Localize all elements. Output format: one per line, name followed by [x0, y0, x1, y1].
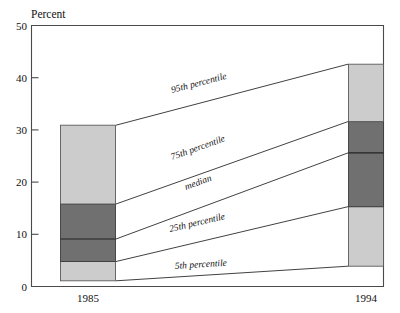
- y-tick-label-20: 20: [16, 176, 28, 188]
- bar-1994-band-75-95: [349, 64, 384, 121]
- bar-1985-band-25-75: [61, 204, 116, 262]
- y-tick-label-40: 40: [16, 72, 28, 84]
- series-label-5th: 5th percentile: [174, 258, 227, 271]
- y-tick-label-10: 10: [16, 228, 28, 240]
- series-label-median: median: [183, 173, 213, 192]
- bar-1985-band-5-25: [61, 262, 116, 281]
- x-category-label-1985: 1985: [77, 292, 100, 304]
- bar-1994: [349, 64, 384, 266]
- series-label-75th: 75th percentile: [169, 133, 226, 162]
- bar-1994-band-25-75: [349, 122, 384, 207]
- bar-1985: [61, 125, 116, 281]
- percentile-range-chart: Percent 50 40 30 20 10 0: [0, 0, 400, 313]
- y-tick-label-0: 0: [22, 281, 28, 293]
- y-tick-label-30: 30: [16, 124, 28, 136]
- y-tick-label-50: 50: [16, 20, 28, 32]
- chart-canvas: Percent 50 40 30 20 10 0: [0, 0, 400, 313]
- percentile-connectors: [116, 64, 348, 281]
- x-category-label-1994: 1994: [355, 292, 378, 304]
- y-axis-tick-labels: 50 40 30 20 10 0: [16, 20, 28, 293]
- series-label-25th: 25th percentile: [168, 211, 226, 234]
- series-label-95th: 95th percentile: [170, 71, 228, 95]
- y-axis-ticks-left: [32, 78, 39, 235]
- bar-1994-band-5-25: [349, 207, 384, 267]
- bar-1985-band-75-95: [61, 125, 116, 204]
- y-axis-title: Percent: [31, 8, 66, 20]
